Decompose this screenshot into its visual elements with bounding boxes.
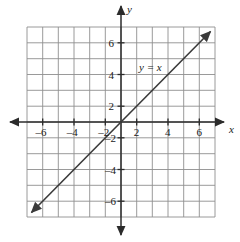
line-equation-label: y = x [138, 61, 162, 73]
y-tick-label-6: 6 [109, 37, 115, 49]
x-tick-label-2: 2 [134, 126, 140, 138]
coordinate-plane-figure: –6 –4 –2 2 4 6 6 4 2 –2 –4 –6 x y y = x [0, 0, 240, 242]
y-tick-label-neg6: –6 [104, 195, 117, 207]
y-axis-label: y [126, 3, 132, 15]
x-axis-label: x [228, 123, 234, 135]
figure-background [0, 0, 240, 242]
y-tick-label-neg2: –2 [104, 132, 116, 144]
x-tick-label-6: 6 [196, 126, 202, 138]
y-tick-label-neg4: –4 [104, 164, 117, 176]
y-tick-label-2: 2 [109, 100, 115, 112]
y-tick-label-4: 4 [109, 69, 115, 81]
x-tick-label-neg6: –6 [35, 126, 48, 138]
x-tick-label-4: 4 [165, 126, 171, 138]
x-tick-label-neg4: –4 [66, 126, 79, 138]
